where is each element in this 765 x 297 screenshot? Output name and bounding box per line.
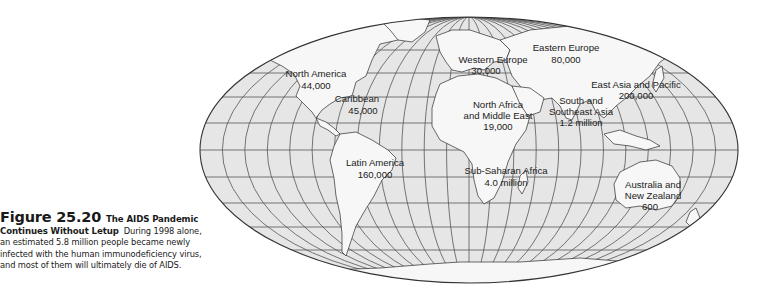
caption-line-4: infected with the human immunodeficiency…	[0, 249, 250, 261]
svg-text:Western Europe: Western Europe	[458, 54, 527, 65]
svg-text:New Zealand: New Zealand	[625, 190, 682, 201]
svg-text:Latin America: Latin America	[346, 157, 405, 168]
svg-text:30,000: 30,000	[471, 65, 500, 76]
svg-text:4.0 million: 4.0 million	[484, 177, 527, 188]
figure-title-continued: Continues Without Letup	[0, 226, 119, 236]
figure-caption: Figure 25.20The AIDS Pandemic Continues …	[0, 212, 250, 272]
svg-text:1.2 million: 1.2 million	[559, 117, 602, 128]
svg-text:45,000: 45,000	[348, 105, 377, 116]
caption-body-start: During 1998 alone,	[124, 226, 202, 236]
svg-text:Australia and: Australia and	[625, 179, 681, 190]
svg-text:160,000: 160,000	[358, 169, 393, 180]
svg-text:Caribbean: Caribbean	[335, 93, 379, 104]
svg-text:Eastern Europe: Eastern Europe	[533, 42, 600, 53]
svg-text:North Africa: North Africa	[473, 99, 524, 110]
svg-text:44,000: 44,000	[301, 80, 330, 91]
svg-text:Sub-Saharan Africa: Sub-Saharan Africa	[464, 165, 548, 176]
svg-text:Southeast Asia: Southeast Asia	[549, 106, 614, 117]
svg-text:South and: South and	[559, 95, 603, 106]
svg-text:200,000: 200,000	[619, 90, 654, 101]
figure-title: The AIDS Pandemic	[106, 214, 198, 224]
svg-text:North America: North America	[286, 68, 347, 79]
figure-number: Figure 25.20	[0, 209, 101, 225]
svg-text:East Asia and Pacific: East Asia and Pacific	[591, 79, 681, 90]
caption-line-3: an estimated 5.8 million people became n…	[0, 237, 250, 249]
caption-line-5: and most of them will ultimately die of …	[0, 260, 250, 272]
caption-line-1: Figure 25.20The AIDS Pandemic	[0, 212, 250, 226]
svg-text:and Middle East: and Middle East	[464, 110, 533, 121]
caption-line-2: Continues Without LetupDuring 1998 alone…	[0, 226, 250, 238]
svg-text:80,000: 80,000	[551, 54, 580, 65]
svg-text:19,000: 19,000	[483, 121, 512, 132]
svg-text:600: 600	[642, 201, 658, 212]
